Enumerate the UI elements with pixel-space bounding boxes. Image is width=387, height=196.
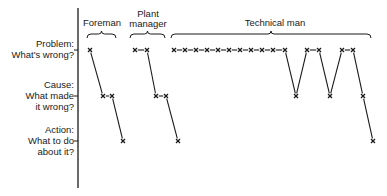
x-marker-icon bbox=[317, 48, 321, 52]
data-markers bbox=[88, 48, 375, 143]
connector-technical_man bbox=[364, 99, 373, 139]
x-marker-icon bbox=[361, 94, 365, 98]
x-marker-icon bbox=[110, 94, 114, 98]
connector-foreman bbox=[113, 99, 123, 139]
row-label-problem: Problem: What's wrong? bbox=[11, 38, 74, 60]
brace-plant_manager bbox=[130, 31, 165, 38]
x-marker-icon bbox=[194, 48, 198, 52]
x-marker-icon bbox=[340, 48, 344, 52]
x-marker-icon bbox=[154, 94, 158, 98]
x-marker-icon bbox=[176, 139, 180, 143]
x-marker-icon bbox=[294, 94, 298, 98]
connector-plant_manager bbox=[148, 53, 156, 94]
problem-title: Problem: bbox=[11, 38, 74, 49]
connector-technical_man bbox=[354, 53, 363, 94]
x-marker-icon bbox=[216, 48, 220, 52]
action-question-line1: What to do bbox=[28, 135, 74, 146]
x-marker-icon bbox=[227, 48, 231, 52]
connector-foreman bbox=[91, 53, 102, 94]
x-marker-icon bbox=[101, 94, 105, 98]
x-marker-icon bbox=[172, 48, 176, 52]
connector-plant_manager bbox=[167, 99, 178, 139]
technical-man-label: Technical man bbox=[245, 17, 306, 28]
connector-technical_man bbox=[320, 53, 330, 94]
action-question-line2: about it? bbox=[28, 146, 74, 157]
x-marker-icon bbox=[305, 48, 309, 52]
x-marker-icon bbox=[133, 48, 137, 52]
x-marker-icon bbox=[328, 94, 332, 98]
x-marker-icon bbox=[371, 139, 375, 143]
x-marker-icon bbox=[249, 48, 253, 52]
row-label-cause: Cause: What made it wrong? bbox=[25, 79, 74, 112]
group-label-foreman: Foreman bbox=[82, 18, 122, 28]
connector-technical_man bbox=[286, 53, 296, 94]
x-marker-icon bbox=[238, 48, 242, 52]
vertical-axis bbox=[74, 8, 78, 188]
cause-question-line1: What made bbox=[25, 90, 74, 101]
x-marker-icon bbox=[271, 48, 275, 52]
foreman-label: Foreman bbox=[83, 17, 121, 28]
group-braces bbox=[87, 31, 371, 38]
x-marker-icon bbox=[351, 48, 355, 52]
connector-technical_man bbox=[331, 53, 342, 94]
x-marker-icon bbox=[183, 48, 187, 52]
brace-technical_man bbox=[171, 31, 371, 38]
x-marker-icon bbox=[205, 48, 209, 52]
x-marker-icon bbox=[164, 94, 168, 98]
cause-question-line2: it wrong? bbox=[25, 101, 74, 112]
group-label-technical-man: Technical man bbox=[230, 18, 320, 28]
connector-technical_man bbox=[297, 53, 307, 94]
x-marker-icon bbox=[283, 48, 287, 52]
row-label-action: Action: What to do about it? bbox=[28, 124, 74, 157]
cause-title: Cause: bbox=[25, 79, 74, 90]
plant-manager-label-line2: manager bbox=[127, 19, 169, 29]
problem-question: What's wrong? bbox=[11, 49, 74, 60]
group-label-plant-manager: Plant manager bbox=[127, 9, 169, 29]
x-marker-icon bbox=[260, 48, 264, 52]
action-title: Action: bbox=[28, 124, 74, 135]
brace-foreman bbox=[87, 31, 116, 38]
x-marker-icon bbox=[88, 48, 92, 52]
x-marker-icon bbox=[121, 139, 125, 143]
x-marker-icon bbox=[145, 48, 149, 52]
connector-lines bbox=[91, 50, 373, 138]
